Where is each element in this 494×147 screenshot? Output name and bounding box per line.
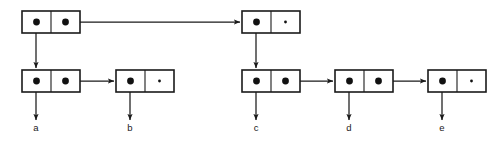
leaf-label-e: e: [439, 122, 444, 133]
cdr-pointer-dot: [62, 19, 69, 26]
cons-cell-b: [116, 70, 174, 92]
leaf-label-b: b: [127, 122, 132, 133]
cons-cell-diagram: abcde: [0, 0, 494, 147]
car-pointer-dot: [253, 19, 260, 26]
cons-cell-d: [335, 70, 393, 92]
car-pointer-dot: [253, 78, 260, 85]
cons-cell-c-head: [242, 11, 300, 33]
car-pointer-dot: [346, 78, 353, 85]
car-pointer-dot: [439, 78, 446, 85]
diagram-canvas: abcde: [0, 0, 494, 147]
leaf-label-c: c: [254, 122, 259, 133]
cdr-pointer-dot: [375, 78, 382, 85]
cdr-pointer-dot: [282, 78, 289, 85]
cons-cell-root: [22, 11, 80, 33]
cons-cell-c: [242, 70, 300, 92]
leaf-labels-layer: abcde: [33, 122, 444, 133]
leaf-label-a: a: [33, 122, 39, 133]
car-pointer-dot: [33, 19, 40, 26]
cdr-nil-marker: [470, 80, 473, 83]
cdr-nil-marker: [158, 80, 161, 83]
cons-cells-layer: [22, 11, 486, 92]
car-pointer-dot: [33, 78, 40, 85]
cons-cell-e: [428, 70, 486, 92]
cons-cell-a: [22, 70, 80, 92]
leaf-label-d: d: [346, 122, 351, 133]
cdr-nil-marker: [284, 21, 287, 24]
car-pointer-dot: [127, 78, 134, 85]
cdr-pointer-dot: [62, 78, 69, 85]
